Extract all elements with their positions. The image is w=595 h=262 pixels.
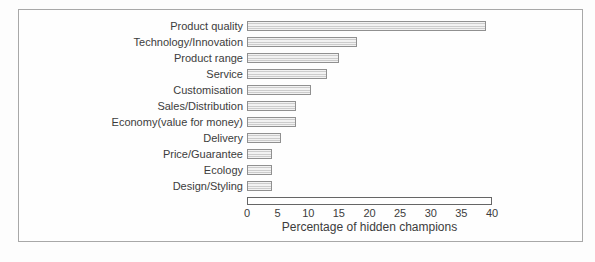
- bar: [247, 37, 357, 47]
- category-label: Ecology: [19, 162, 243, 178]
- category-label: Delivery: [19, 130, 243, 146]
- x-tick-label: 15: [333, 207, 345, 219]
- category-label: Sales/Distribution: [19, 98, 243, 114]
- x-tick-label: 5: [275, 207, 281, 219]
- bar: [247, 69, 327, 79]
- category-label: Economy(value for money): [19, 114, 243, 130]
- x-axis-label: Percentage of hidden champions: [247, 220, 492, 234]
- x-tick-label: 30: [425, 207, 437, 219]
- figure: Product qualityTechnology/InnovationProd…: [0, 0, 595, 262]
- x-tick-label: 20: [363, 207, 375, 219]
- bar: [247, 21, 486, 31]
- category-label: Design/Styling: [19, 178, 243, 194]
- x-axis-scale-box: [247, 197, 492, 205]
- x-tick-label: 0: [244, 207, 250, 219]
- bar: [247, 165, 272, 175]
- category-label: Customisation: [19, 82, 243, 98]
- category-label: Product range: [19, 50, 243, 66]
- x-tick-label: 10: [302, 207, 314, 219]
- chart-frame: Product qualityTechnology/InnovationProd…: [18, 9, 583, 242]
- x-tick-label: 40: [486, 207, 498, 219]
- bar: [247, 181, 272, 191]
- x-tick-label: 35: [455, 207, 467, 219]
- bar: [247, 101, 296, 111]
- category-label: Product quality: [19, 18, 243, 34]
- category-label: Service: [19, 66, 243, 82]
- bar: [247, 53, 339, 63]
- category-label: Technology/Innovation: [19, 34, 243, 50]
- bar: [247, 117, 296, 127]
- bar: [247, 133, 281, 143]
- category-label: Price/Guarantee: [19, 146, 243, 162]
- bar: [247, 149, 272, 159]
- x-tick-label: 25: [394, 207, 406, 219]
- bar: [247, 85, 311, 95]
